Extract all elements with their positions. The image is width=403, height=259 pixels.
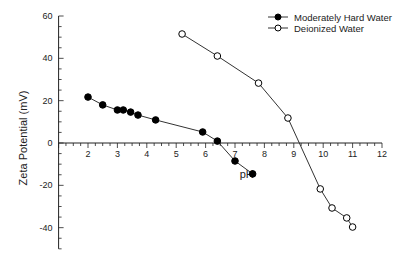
zeta-potential-chart: -40-20020406023456789101112pHZeta Potent…: [0, 0, 403, 259]
data-series: [85, 31, 356, 231]
x-tick-label: 12: [377, 149, 387, 159]
open-marker: [255, 80, 262, 87]
x-tick-label: 2: [85, 149, 90, 159]
filled-marker: [99, 102, 106, 109]
x-tick-label: 5: [174, 149, 179, 159]
x-tick-label: 6: [203, 149, 208, 159]
y-tick-label: -20: [40, 180, 53, 190]
open-marker: [349, 224, 356, 231]
filled-marker: [232, 158, 239, 165]
filled-marker: [152, 117, 159, 124]
x-tick-label: 9: [291, 149, 296, 159]
filled-marker: [199, 129, 206, 136]
y-tick-label: 0: [48, 138, 53, 148]
series-line: [182, 34, 353, 227]
open-marker: [329, 205, 336, 212]
x-tick-label: 4: [144, 149, 149, 159]
filled-marker: [120, 107, 127, 114]
filled-marker: [135, 112, 142, 119]
open-marker: [214, 53, 221, 60]
filled-marker: [214, 138, 221, 145]
legend-label: Moderately Hard Water: [294, 12, 392, 23]
series-line: [88, 97, 253, 174]
legend-label: Deionized Water: [294, 23, 364, 34]
filled-marker: [85, 94, 92, 101]
open-marker: [343, 215, 350, 222]
open-marker: [179, 31, 186, 38]
x-tick-label: 8: [262, 149, 267, 159]
open-marker: [285, 115, 292, 122]
legend: Moderately Hard WaterDeionized Water: [268, 12, 392, 34]
y-tick-label: -40: [40, 223, 53, 233]
y-tick-label: 60: [43, 11, 53, 21]
legend-marker-icon: [275, 14, 281, 20]
x-tick-label: 11: [348, 149, 357, 159]
y-tick-label: 20: [43, 96, 53, 106]
filled-marker: [127, 109, 134, 116]
x-tick-label: 3: [115, 149, 120, 159]
open-marker: [317, 186, 324, 193]
filled-marker: [249, 171, 256, 178]
legend-marker-icon: [275, 25, 281, 31]
x-tick-label: 10: [318, 149, 328, 159]
y-axis-title: Zeta Potential (mV): [17, 91, 29, 186]
y-tick-label: 40: [43, 53, 53, 63]
